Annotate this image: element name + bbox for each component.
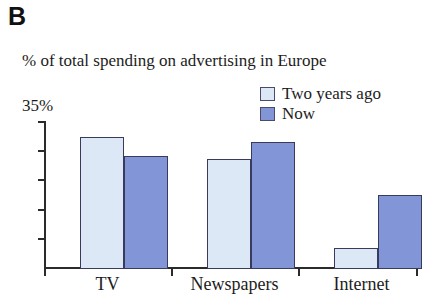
x-axis-label-internet: Internet bbox=[298, 272, 425, 296]
x-axis-label-newspapers: Newspapers bbox=[171, 272, 298, 296]
bar-tv-now bbox=[124, 156, 168, 269]
y-axis-tick bbox=[38, 179, 45, 181]
y-axis-tick bbox=[38, 121, 45, 123]
y-axis-line bbox=[44, 121, 46, 269]
y-axis-tick bbox=[38, 150, 45, 152]
bar-chart-plot-area: TVNewspapersInternet bbox=[0, 0, 431, 301]
y-axis-tick bbox=[38, 209, 45, 211]
bar-newspapers-now bbox=[251, 142, 295, 269]
y-axis-tick bbox=[38, 238, 45, 240]
bar-newspapers-two-years-ago bbox=[207, 159, 251, 269]
bar-tv-two-years-ago bbox=[80, 137, 124, 269]
bar-internet-now bbox=[378, 195, 422, 269]
x-axis-label-tv: TV bbox=[44, 272, 171, 296]
bar-internet-two-years-ago bbox=[334, 248, 378, 269]
